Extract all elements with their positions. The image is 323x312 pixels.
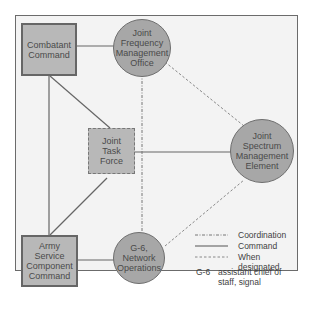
- jtf-label: Joint Task Force: [89, 136, 134, 166]
- combatant-command-label: Combatant Command: [23, 40, 75, 60]
- abbr-value: assistant chief of staff, signal: [218, 267, 296, 287]
- ascc-label: Army Service Component Command: [23, 241, 76, 281]
- jsme-label: Joint Spectrum Management Element: [231, 131, 293, 171]
- legend-command: Command: [238, 241, 277, 251]
- jfmo-label: Joint Frequency Management Office: [112, 28, 173, 68]
- jtf-node: Joint Task Force: [88, 128, 135, 174]
- g6-node: G-6, Network Operations: [113, 232, 165, 284]
- g6-label: G-6, Network Operations: [113, 243, 165, 273]
- legend-coordination: Coordination: [238, 230, 286, 240]
- jfmo-node: Joint Frequency Management Office: [113, 19, 171, 77]
- jsme-node: Joint Spectrum Management Element: [230, 119, 294, 183]
- abbr-key: G-6: [196, 267, 218, 277]
- ascc-node: Army Service Component Command: [21, 235, 78, 287]
- legend-abbreviation: G-6 assistant chief of staff, signal: [196, 267, 296, 287]
- combatant-command-node: Combatant Command: [21, 23, 77, 76]
